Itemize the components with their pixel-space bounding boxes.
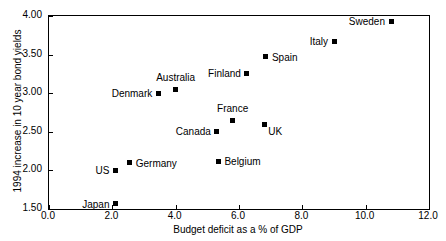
data-point-marker <box>127 160 132 165</box>
data-point-marker <box>230 118 235 123</box>
data-point-marker <box>214 129 219 134</box>
y-axis-tick-label: 3.50 <box>2 48 42 59</box>
data-point-marker <box>156 91 161 96</box>
x-axis-tick <box>302 205 303 209</box>
y-axis-tick <box>49 16 53 17</box>
data-point-marker <box>389 19 394 24</box>
plot-area: JapanUSGermanyDenmarkAustraliaBelgiumCan… <box>48 15 430 210</box>
y-axis-tick-label: 2.50 <box>2 125 42 136</box>
data-point-label: Canada <box>176 126 211 137</box>
data-point-label: UK <box>268 126 282 137</box>
x-axis-title: Budget deficit as a % of GDP <box>48 224 428 236</box>
data-point-marker <box>262 122 267 127</box>
data-point-label: Belgium <box>224 156 260 167</box>
data-point-marker <box>244 71 249 76</box>
data-point-label: Germany <box>136 157 177 168</box>
data-point-label: Australia <box>156 72 195 83</box>
x-axis-tick-label: 2.0 <box>91 210 131 221</box>
x-axis-tick-label: 6.0 <box>218 210 258 221</box>
x-axis-tick <box>429 205 430 209</box>
y-axis-tick-label: 2.00 <box>2 163 42 174</box>
data-point-marker <box>263 54 268 59</box>
y-axis-tick-label: 4.00 <box>2 9 42 20</box>
data-point-label: US <box>96 165 110 176</box>
x-axis-tick-label: 10.0 <box>345 210 385 221</box>
y-axis-tick <box>49 170 53 171</box>
data-point-marker <box>113 168 118 173</box>
scatter-chart-figure: 1994 increase in 10 year bond yields Bud… <box>0 0 446 241</box>
x-axis-tick <box>366 205 367 209</box>
y-axis-tick <box>49 55 53 56</box>
x-axis-tick <box>176 205 177 209</box>
data-point-marker <box>113 201 118 206</box>
x-axis-tick-label: 0.0 <box>28 210 68 221</box>
data-point-label: Denmark <box>112 88 153 99</box>
y-axis-tick-label: 3.00 <box>2 86 42 97</box>
data-point-label: Spain <box>272 51 298 62</box>
data-point-marker <box>216 159 221 164</box>
y-axis-title: 1994 increase in 10 year bond yields <box>12 11 24 211</box>
x-axis-tick-label: 4.0 <box>155 210 195 221</box>
x-axis-tick <box>239 205 240 209</box>
data-point-label: Finland <box>208 68 241 79</box>
y-axis-tick <box>49 132 53 133</box>
data-point-label: Italy <box>310 36 328 47</box>
y-axis-tick <box>49 93 53 94</box>
data-point-marker <box>332 39 337 44</box>
x-axis-tick-label: 8.0 <box>281 210 321 221</box>
data-point-marker <box>173 87 178 92</box>
data-point-label: Japan <box>82 198 109 209</box>
x-axis-tick-label: 12.0 <box>408 210 446 221</box>
data-point-label: France <box>217 103 248 114</box>
data-point-label: Sweden <box>349 16 385 27</box>
y-axis-tick <box>49 209 53 210</box>
